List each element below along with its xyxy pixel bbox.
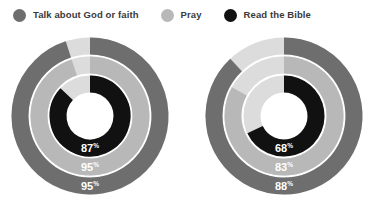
radial-chart-right: 68% 83% 88% <box>196 28 372 211</box>
legend-item-pray[interactable]: Pray <box>161 9 202 22</box>
legend-item-talk[interactable]: Talk about God or faith <box>13 9 139 22</box>
legend-label-bible: Read the Bible <box>244 10 311 20</box>
circle-marker-icon <box>161 9 174 22</box>
legend-label-pray: Pray <box>181 10 202 20</box>
charts-row: 87% 95% 95% <box>0 28 381 211</box>
circle-marker-icon <box>224 9 237 22</box>
radial-chart-figure: Talk about God or faith Pray Read the Bi… <box>0 0 381 211</box>
legend-item-bible[interactable]: Read the Bible <box>224 9 311 22</box>
legend-label-talk: Talk about God or faith <box>33 10 139 20</box>
radial-chart-left-svg: 87% 95% 95% <box>2 28 178 211</box>
ring-group-inner <box>252 84 316 148</box>
ring-group-inner <box>58 84 122 148</box>
radial-chart-left: 87% 95% 95% <box>2 28 178 211</box>
chart-legend: Talk about God or faith Pray Read the Bi… <box>0 0 381 30</box>
radial-chart-right-svg: 68% 83% 88% <box>196 28 372 211</box>
circle-marker-icon <box>13 9 26 22</box>
